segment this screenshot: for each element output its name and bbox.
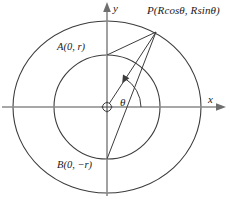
geometry-diagram: P(Rcosθ, Rsinθ) A(0, r) B(0, −r) θ x y: [0, 0, 230, 199]
point-p-label: P(Rcosθ, Rsinθ): [147, 5, 220, 16]
x-axis-arrowhead: [216, 103, 226, 111]
point-a-label: A(0, r): [57, 42, 85, 53]
angle-theta-label: θ: [120, 97, 125, 108]
y-axis-arrowhead: [103, 2, 111, 12]
point-b-label: B(0, −r): [57, 160, 92, 171]
y-axis-label: y: [113, 3, 118, 14]
x-axis-label: x: [208, 94, 213, 105]
angle-arc-arrowhead: [122, 75, 129, 84]
diagram-canvas: [0, 0, 230, 199]
